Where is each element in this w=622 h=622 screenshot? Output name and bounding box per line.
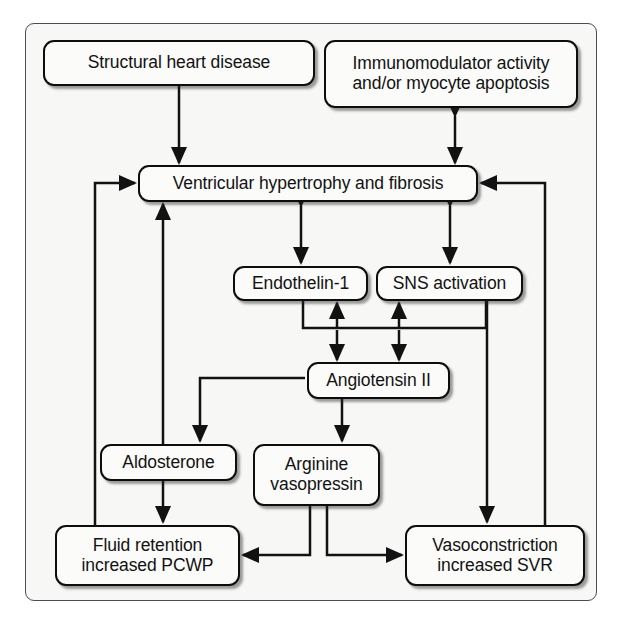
node-aldosterone[interactable]: Aldosterone	[100, 444, 237, 481]
node-label: Aldosterone	[122, 453, 214, 473]
node-label-line-1: Arginine	[270, 455, 362, 475]
node-label-line-1: Fluid retention	[82, 536, 214, 556]
node-label: Angiotensin II	[326, 371, 431, 391]
node-endothelin-1[interactable]: Endothelin-1	[233, 266, 368, 301]
node-fluid-retention-increased-pcwp[interactable]: Fluid retention increased PCWP	[55, 525, 240, 586]
node-label-line-2: increased SVR	[432, 556, 558, 576]
node-angiotensin-ii[interactable]: Angiotensin II	[307, 362, 450, 399]
edge-vasopressin-vasoconstriction	[327, 506, 402, 555]
node-sns-activation[interactable]: SNS activation	[376, 266, 523, 301]
edge-bus-left-riser	[303, 301, 486, 328]
node-label: Structural heart disease	[88, 53, 270, 73]
node-label-line-2: increased PCWP	[82, 556, 214, 576]
node-vasoconstriction-increased-svr[interactable]: Vasoconstriction increased SVR	[405, 525, 585, 586]
node-label-line-1: Vasoconstriction	[432, 536, 558, 556]
edge-angiotensin-aldosterone	[200, 378, 305, 441]
node-immunomodulator-activity[interactable]: Immunomodulator activity and/or myocyte …	[324, 40, 578, 108]
node-arginine-vasopressin[interactable]: Arginine vasopressin	[253, 444, 380, 506]
node-label: Endothelin-1	[252, 274, 349, 294]
node-label-line-1: Immunomodulator activity	[352, 54, 549, 74]
node-label: Ventricular hypertrophy and fibrosis	[173, 174, 444, 194]
edge-vasoconstriction-ventricular	[481, 183, 545, 525]
diagram-canvas: Structural heart disease Immunomodulator…	[0, 0, 622, 622]
node-label: SNS activation	[393, 274, 506, 294]
node-ventricular-hypertrophy-fibrosis[interactable]: Ventricular hypertrophy and fibrosis	[138, 165, 478, 202]
edge-vasopressin-fluid	[243, 506, 310, 555]
node-structural-heart-disease[interactable]: Structural heart disease	[43, 40, 315, 86]
node-label-line-2: vasopressin	[270, 475, 362, 495]
node-label-line-2: and/or myocyte apoptosis	[352, 74, 549, 94]
